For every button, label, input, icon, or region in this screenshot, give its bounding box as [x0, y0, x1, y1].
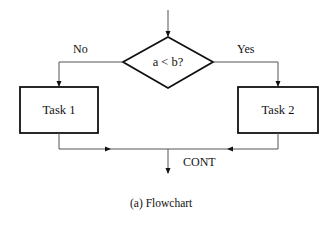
decision-label: a < b? — [133, 55, 203, 69]
no-branch-connector — [59, 62, 123, 86]
yes-branch-connector — [213, 62, 278, 86]
task-2-merge-connector — [228, 133, 278, 149]
task-2-label: Task 2 — [238, 103, 318, 117]
merge-label: CONT — [183, 155, 216, 169]
figure-caption: (a) Flowchart — [130, 196, 192, 210]
task-1-label: Task 1 — [20, 103, 98, 117]
yes-branch-label: Yes — [237, 42, 254, 56]
no-branch-label: No — [73, 42, 88, 56]
task-1-merge-connector — [59, 133, 110, 149]
